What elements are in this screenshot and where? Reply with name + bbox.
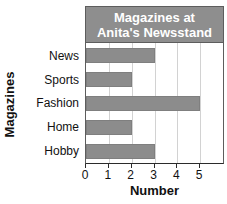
y-axis-title-text: Magazines bbox=[3, 71, 18, 137]
bar-slot-home bbox=[86, 115, 223, 139]
x-axis-title: Number bbox=[85, 183, 224, 198]
y-axis-title: Magazines bbox=[0, 44, 20, 164]
bar-hobby bbox=[86, 144, 155, 159]
tick-label-2: 2 bbox=[123, 168, 139, 182]
bar-slot-news bbox=[86, 43, 223, 67]
chart-title-line-2: Anita's Newsstand bbox=[97, 25, 212, 40]
bar-slot-hobby bbox=[86, 139, 223, 163]
tick-label-4: 4 bbox=[168, 168, 184, 182]
y-axis-category-labels: News Sports Fashion Home Hobby bbox=[20, 44, 82, 163]
tick-label-0: 0 bbox=[77, 168, 93, 182]
chart-title-band: Magazines at Anita's Newsstand bbox=[85, 6, 224, 43]
tick-label-5: 5 bbox=[191, 168, 207, 182]
bar-sports bbox=[86, 72, 132, 87]
category-label-home: Home bbox=[20, 115, 82, 139]
chart-title-line-1: Magazines at bbox=[114, 10, 195, 25]
category-label-hobby: Hobby bbox=[20, 139, 82, 163]
bar-news bbox=[86, 48, 155, 63]
tick-label-1: 1 bbox=[100, 168, 116, 182]
bar-chart: Magazines News Sports Fashion Home Hobby… bbox=[0, 0, 227, 204]
bar-slot-fashion bbox=[86, 91, 223, 115]
tick-label-3: 3 bbox=[146, 168, 162, 182]
category-label-sports: Sports bbox=[20, 68, 82, 92]
category-label-news: News bbox=[20, 44, 82, 68]
bar-slot-sports bbox=[86, 67, 223, 91]
bar-home bbox=[86, 120, 132, 135]
plot-area bbox=[85, 43, 224, 164]
bar-fashion bbox=[86, 96, 200, 111]
category-label-fashion: Fashion bbox=[20, 92, 82, 116]
x-axis-tick-labels: 012345 bbox=[85, 168, 224, 182]
bars-layer bbox=[86, 43, 223, 163]
